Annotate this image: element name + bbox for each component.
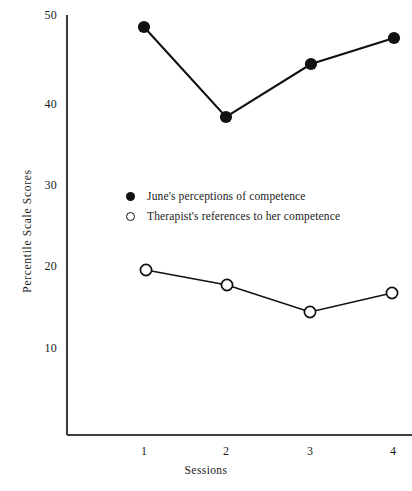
x-tick-label-2: 2 [216,444,236,459]
legend-label-therapist: Therapist's references to her competence [142,210,340,222]
y-tick-label-10: 10 [31,341,57,356]
open-circle-icon [126,206,142,226]
chart-legend: June's perceptions of competence Therapi… [126,186,396,226]
x-tick-label-4: 4 [383,444,403,459]
y-tick-label-20: 20 [31,259,57,274]
data-point-june-4 [388,32,400,44]
data-point-therapist-3 [304,306,315,317]
data-point-june-3 [305,58,317,70]
x-tick-label-3: 3 [300,444,320,459]
data-point-therapist-1 [140,264,151,275]
series-line-therapist [146,270,392,312]
legend-item-therapist: Therapist's references to her competence [126,206,396,226]
plot-area [0,0,412,491]
data-point-june-1 [138,21,150,33]
x-tick-label-1: 1 [134,444,154,459]
y-tick-label-50: 50 [31,8,57,23]
y-axis-label: Percentile Scale Scores [21,151,33,311]
data-point-june-2 [220,111,232,123]
chart-figure: 50 40 30 20 10 1 2 3 4 Percentile Scale … [0,0,412,491]
data-point-therapist-4 [386,287,397,298]
x-axis-label: Sessions [0,464,412,476]
y-tick-label-30: 30 [31,178,57,193]
legend-label-june: June's perceptions of competence [142,190,306,202]
series-line-june [144,27,394,117]
filled-circle-icon [126,186,142,206]
y-tick-label-40: 40 [31,97,57,112]
data-point-therapist-2 [221,279,232,290]
legend-item-june: June's perceptions of competence [126,186,396,206]
